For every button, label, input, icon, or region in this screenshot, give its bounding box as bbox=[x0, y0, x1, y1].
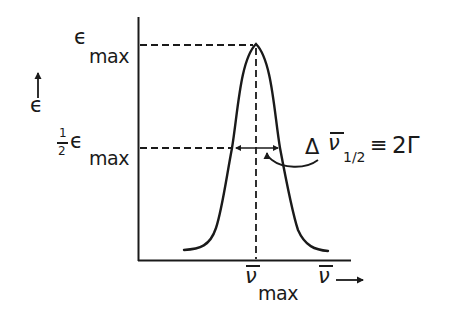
half-epsilon-symbol: ϵ bbox=[70, 131, 83, 152]
annotation-value: 2Γ bbox=[392, 134, 419, 157]
nu-max-symbol: ν bbox=[245, 266, 257, 287]
x-axis-symbol: ν bbox=[318, 266, 330, 287]
diagram-graphics bbox=[0, 0, 451, 316]
y-axis-label: ϵ bbox=[30, 95, 43, 116]
absorption-band-diagram: ϵ ϵ max 1 2 ϵ max ν max ν Δ ν 1/2 ≡ 2Γ bbox=[0, 0, 451, 316]
fraction-numerator: 1 bbox=[59, 127, 67, 139]
epsilon-max-symbol: ϵ bbox=[74, 27, 87, 48]
half-epsilon-subscript: max bbox=[89, 149, 129, 168]
epsilon-max-subscript: max bbox=[89, 47, 129, 66]
delta-symbol: Δ bbox=[305, 137, 319, 158]
annotation-equiv: ≡ bbox=[370, 135, 388, 156]
annotation-nu-symbol: ν bbox=[328, 133, 340, 154]
fraction-denominator: 2 bbox=[58, 145, 66, 157]
nu-max-subscript: max bbox=[258, 284, 298, 303]
annotation-subscript: 1/2 bbox=[343, 150, 366, 164]
